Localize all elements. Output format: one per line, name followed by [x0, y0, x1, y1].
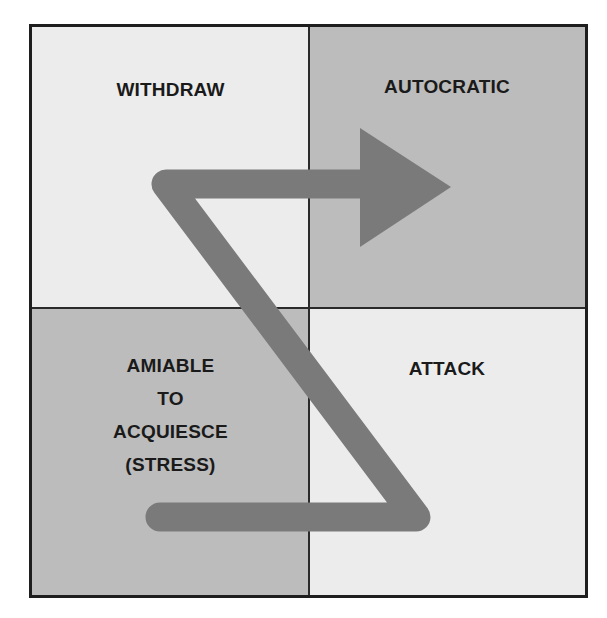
- label-amiable: AMIABLE TO ACQUIESCE (STRESS): [32, 349, 309, 481]
- label-withdraw: WITHDRAW: [32, 73, 309, 106]
- quadrant-amiable: AMIABLE TO ACQUIESCE (STRESS): [32, 308, 309, 595]
- quadrant-withdraw: WITHDRAW: [32, 27, 309, 308]
- label-amiable-line-2: TO: [32, 382, 309, 415]
- quadrant-grid: WITHDRAW AUTOCRATIC AMIABLE TO ACQUIESCE…: [29, 24, 588, 598]
- label-amiable-line-1: AMIABLE: [32, 349, 309, 382]
- quadrant-attack: ATTACK: [309, 308, 585, 595]
- label-amiable-line-4: (STRESS): [32, 448, 309, 481]
- quadrant-autocratic: AUTOCRATIC: [309, 27, 585, 308]
- horizontal-divider: [32, 307, 585, 309]
- label-amiable-line-3: ACQUIESCE: [32, 415, 309, 448]
- label-attack: ATTACK: [309, 352, 585, 385]
- vertical-divider: [308, 27, 310, 595]
- label-autocratic: AUTOCRATIC: [309, 70, 585, 103]
